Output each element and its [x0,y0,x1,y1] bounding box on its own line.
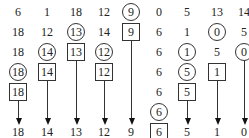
tournament-sort-diagram: 6181818181811214141418131313121412121299… [0,0,249,138]
connector-line [187,101,188,118]
value: 0 [148,3,170,21]
value: 14 [93,23,115,41]
value: 12 [36,23,58,41]
boxed-value: 13 [67,43,85,61]
boxed-value: 5 [178,83,196,101]
value: 13 [206,3,228,21]
value: 6 [148,23,170,41]
circled-value: 13 [67,23,85,41]
output-value: 9 [120,123,142,138]
connector-line [76,61,77,118]
circled-value: 14 [38,43,56,61]
circled-value: 18 [9,63,27,81]
connector-line [131,41,132,118]
value: 6 [148,43,170,61]
value: 5 [206,43,228,61]
boxed-value: 14 [38,63,56,81]
value: 6 [148,63,170,81]
circled-value: 9 [122,3,140,21]
value: 1 [36,3,58,21]
connector-line [244,61,245,118]
value: 5 [176,3,198,21]
output-value: 0 [233,123,249,138]
output-value: 14 [36,123,58,138]
output-value: 1 [206,123,228,138]
value: 12 [93,3,115,21]
value: 5 [233,23,249,41]
connector-line [217,81,218,118]
value: 18 [65,3,87,21]
boxed-value: 18 [9,83,27,101]
circled-value: 0 [208,23,226,41]
boxed-value: 9 [122,23,140,41]
value: 18 [7,23,29,41]
circled-value: 12 [95,43,113,61]
circled-value: 1 [178,43,196,61]
value: 1 [176,23,198,41]
value: 6 [148,83,170,101]
output-value: 12 [93,123,115,138]
value: 18 [7,43,29,61]
connector-line [47,81,48,118]
value: 6 [7,3,29,21]
output-value: 5 [176,123,198,138]
circled-value: 0 [235,43,249,61]
connector-line [104,81,105,118]
boxed-value: 1 [208,63,226,81]
boxed-value: 6 [150,123,168,138]
output-value: 13 [65,123,87,138]
circled-value: 5 [178,63,196,81]
connector-line [18,101,19,118]
value: 14 [233,3,249,21]
boxed-value: 12 [95,63,113,81]
output-value: 18 [7,123,29,138]
circled-value: 6 [150,103,168,121]
